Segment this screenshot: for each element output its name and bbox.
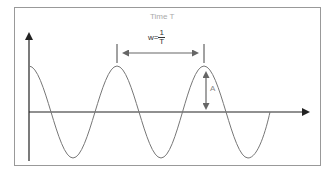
title-label: Time T [150, 12, 174, 21]
amplitude-label: A [210, 84, 215, 93]
frequency-denominator: T [159, 38, 164, 46]
sine-wave-diagram [0, 0, 334, 177]
frequency-prefix: w= [148, 33, 158, 42]
frequency-label: w= 1 T [148, 29, 165, 46]
